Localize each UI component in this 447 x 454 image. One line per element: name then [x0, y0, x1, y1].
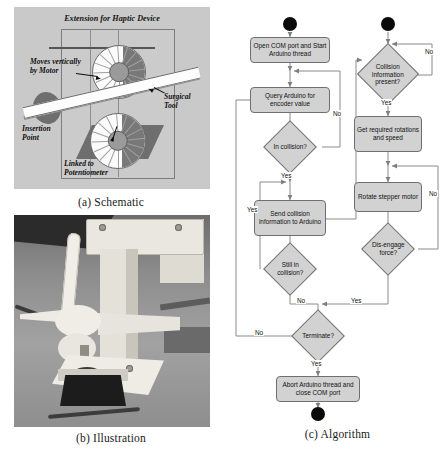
label-insertion-point: Insertion Point [22, 124, 68, 142]
label-moves-vertically-by-motor: Moves vertically by Motor [30, 57, 100, 75]
photo-background-box [164, 327, 210, 353]
node-send-collision-info[interactable]: Send collision information to Arduino [254, 200, 326, 236]
start-node-arduino [381, 17, 395, 31]
wheel-hub [109, 62, 129, 82]
edge-label-collision-info-yes: Yes [380, 99, 392, 106]
arrow-motor-head [96, 76, 102, 81]
photo-bolt [99, 224, 106, 231]
label-surgical-tool: Surgical Tool [164, 92, 208, 110]
decision-collision-information-present-label: Collision Information present? [367, 63, 409, 86]
photo-vertical-column-shadow [126, 249, 138, 361]
caption-schematic: (a) Schematic [0, 196, 222, 208]
schematic-panel: Extension for Haptic Device Moves vertic… [14, 7, 210, 189]
edge-label-still-in-collision-yes: Yes [246, 206, 258, 213]
algorithm-flowchart: Open COM port and Start Arduino thread Q… [228, 4, 447, 424]
schematic-title: Extension for Haptic Device [14, 14, 210, 23]
decision-terminate-label: Terminate? [300, 332, 336, 340]
edge-label-terminate-no: No [254, 329, 264, 336]
decision-in-collision-label: In collision? [272, 143, 308, 151]
node-abort-arduino-thread[interactable]: Abort Arduino thread and close COM port [276, 376, 360, 402]
edge-label-in-collision-yes: Yes [280, 172, 292, 179]
end-node-main [311, 407, 325, 421]
caption-algorithm: (c) Algorithm [228, 428, 447, 440]
caption-illustration: (b) Illustration [0, 432, 222, 444]
figure-root: Extension for Haptic Device Moves vertic… [0, 0, 447, 454]
illustration-photo [14, 215, 210, 427]
node-get-required-rotations[interactable]: Get required rotations and speed [354, 116, 422, 152]
edge-label-in-collision-no: No [332, 110, 342, 117]
node-open-com-port[interactable]: Open COM port and Start Arduino thread [250, 37, 330, 63]
decision-still-in-collision-label: Still in collision? [272, 261, 308, 276]
label-linked-to-potentiometer: Linked to Potentiometer [64, 159, 132, 177]
edge-label-still-in-collision-no: No [296, 297, 306, 304]
photo-stepper-motor [60, 375, 126, 411]
photo-vertical-column [100, 249, 126, 361]
node-query-arduino[interactable]: Query Arduino for encoder value [250, 87, 330, 113]
edge-label-dis-engage-no: No [428, 190, 438, 197]
node-rotate-stepper-motor[interactable]: Rotate stepper motor [354, 182, 422, 212]
start-node-main [283, 17, 297, 31]
photo-bolt [175, 224, 182, 231]
edge-label-collision-info-no: No [424, 48, 434, 55]
edge-label-terminate-yes: Yes [310, 360, 322, 367]
decision-dis-engage-force-label: Dis-engage force? [370, 241, 406, 256]
edge-label-dis-engage-yes: Yes [350, 297, 362, 304]
